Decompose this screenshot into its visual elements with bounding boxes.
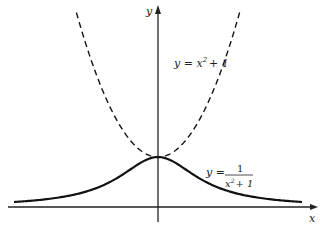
- chart: x y y = x2+ 1 y = 1 x2+ 1: [0, 0, 320, 229]
- svg-text:y = x2+ 1: y = x2+ 1: [173, 56, 229, 70]
- annotation-reciprocal-lhs: y =: [205, 166, 225, 179]
- annotation-reciprocal-den-rest: + 1: [235, 178, 253, 189]
- annotation-reciprocal-den-exp: 2: [230, 177, 235, 184]
- y-axis-arrow-icon: [155, 5, 161, 14]
- annotation-parabola-rhs: + 1: [209, 57, 229, 70]
- svg-text:x2+ 1: x2+ 1: [225, 177, 253, 189]
- axes: x y: [8, 5, 318, 225]
- x-axis-label: x: [309, 212, 316, 225]
- annotation-parabola-lhs: y = x: [173, 57, 203, 70]
- annotation-parabola: y = x2+ 1: [173, 56, 229, 70]
- annotation-reciprocal-numerator: 1: [237, 163, 243, 174]
- y-axis-label: y: [145, 5, 153, 18]
- x-axis-arrow-icon: [310, 204, 318, 210]
- annotation-parabola-exp: 2: [202, 56, 208, 64]
